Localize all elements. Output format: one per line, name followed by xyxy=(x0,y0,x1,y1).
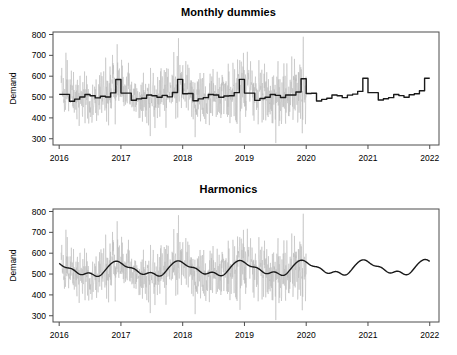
y-axis-tick-label: 300 xyxy=(32,311,46,321)
series-observed-demand xyxy=(61,37,306,143)
y-axis-tick-label: 800 xyxy=(32,30,46,40)
x-axis-tick-label: 2019 xyxy=(235,153,254,163)
y-axis-tick-label: 400 xyxy=(32,290,46,300)
y-axis-tick-label: 700 xyxy=(32,50,46,60)
y-axis-tick-label: 800 xyxy=(32,207,46,217)
y-axis-tick-label: 500 xyxy=(32,92,46,102)
y-axis-tick-label: 600 xyxy=(32,248,46,258)
x-axis-tick-label: 2016 xyxy=(50,330,69,340)
plot-harmonics: 3004005006007008002016201720182019202020… xyxy=(0,177,457,355)
x-axis-tick-label: 2018 xyxy=(173,330,192,340)
panel-monthly-dummies: Monthly dummies 300400500600700800201620… xyxy=(0,0,457,178)
x-axis-tick-label: 2017 xyxy=(111,330,130,340)
panel-harmonics: Harmonics 300400500600700800201620172018… xyxy=(0,177,457,355)
x-axis-tick-label: 2021 xyxy=(359,153,378,163)
x-axis-tick-label: 2018 xyxy=(173,153,192,163)
x-axis-tick-label: 2022 xyxy=(420,153,439,163)
y-axis-tick-label: 500 xyxy=(32,269,46,279)
y-axis-title: Demand xyxy=(8,249,18,281)
x-axis-tick-label: 2020 xyxy=(297,153,316,163)
x-axis-tick-label: 2016 xyxy=(50,153,69,163)
y-axis-tick-label: 600 xyxy=(32,71,46,81)
y-axis-tick-label: 300 xyxy=(32,134,46,144)
x-axis-tick-label: 2021 xyxy=(359,330,378,340)
x-axis-tick-label: 2019 xyxy=(235,330,254,340)
y-axis-tick-label: 400 xyxy=(32,113,46,123)
x-axis-tick-label: 2022 xyxy=(420,330,439,340)
y-axis-tick-label: 700 xyxy=(32,227,46,237)
x-axis-tick-label: 2017 xyxy=(111,153,130,163)
plot-monthly-dummies: 3004005006007008002016201720182019202020… xyxy=(0,0,457,178)
figure-container: Monthly dummies 300400500600700800201620… xyxy=(0,0,457,355)
y-axis-title: Demand xyxy=(8,72,18,104)
series-observed-demand xyxy=(61,214,306,320)
x-axis-tick-label: 2020 xyxy=(297,330,316,340)
